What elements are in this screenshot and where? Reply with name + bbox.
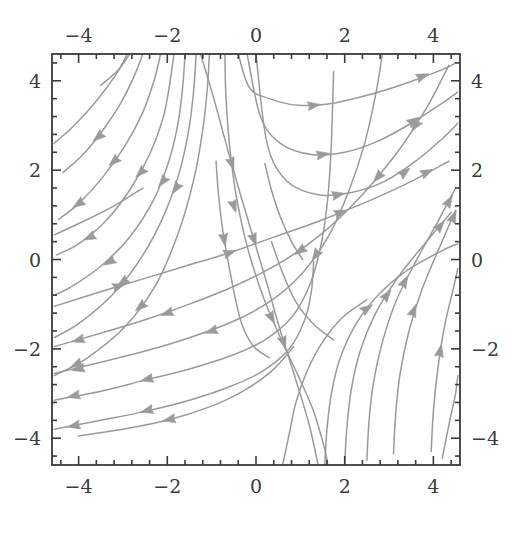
x-tick-label-top: −4 xyxy=(65,24,93,46)
phase-portrait-figure: −4−4−2−2002244−4−4−2−2002244 xyxy=(0,0,515,538)
y-tick-label-right: 0 xyxy=(471,249,483,271)
y-tick-label-left: −4 xyxy=(13,427,41,449)
plot-canvas: −4−4−2−2002244−4−4−2−2002244 xyxy=(0,0,515,538)
x-tick-label-top: 0 xyxy=(250,24,262,46)
y-tick-label-right: 2 xyxy=(471,159,483,181)
x-tick-label-bottom: 0 xyxy=(250,475,262,497)
x-tick-label-top: −2 xyxy=(153,24,181,46)
y-tick-label-right: −4 xyxy=(471,427,499,449)
y-tick-label-right: 4 xyxy=(471,70,483,92)
x-tick-label-bottom: 2 xyxy=(339,475,351,497)
x-tick-label-bottom: −2 xyxy=(153,475,181,497)
figure-background xyxy=(0,0,515,538)
x-tick-label-bottom: −4 xyxy=(65,475,93,497)
x-tick-label-top: 4 xyxy=(427,24,439,46)
x-tick-label-top: 2 xyxy=(339,24,351,46)
y-tick-label-left: 4 xyxy=(29,70,41,92)
y-tick-label-left: 2 xyxy=(29,159,41,181)
y-tick-label-left: 0 xyxy=(29,249,41,271)
x-tick-label-bottom: 4 xyxy=(427,475,439,497)
y-tick-label-left: −2 xyxy=(13,338,41,360)
y-tick-label-right: −2 xyxy=(471,338,499,360)
